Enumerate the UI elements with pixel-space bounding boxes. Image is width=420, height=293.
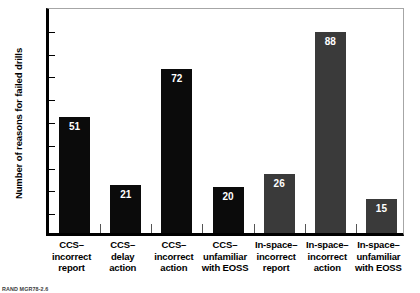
x-axis-label-line: CCS– — [199, 239, 250, 251]
bars-group: 51217220268815 — [49, 9, 403, 233]
x-tick-mark — [202, 224, 203, 233]
x-axis-label-line: CCS– — [46, 239, 97, 251]
x-tick-mark — [305, 224, 306, 233]
bar: 72 — [161, 69, 192, 233]
bar-chart-figure: Number of reasons for failed drills 1009… — [0, 0, 420, 293]
x-axis-label-line: action — [148, 262, 199, 274]
x-axis-label-line: with EOSS — [199, 262, 250, 274]
x-axis-label-line: incorrect — [148, 251, 199, 263]
x-axis-label-line: with EOSS — [353, 262, 404, 274]
bar-value-label: 20 — [213, 191, 244, 202]
x-axis-label-line: unfamiliar — [353, 251, 404, 263]
x-axis-label: CCS–incorrectaction — [148, 239, 199, 274]
bar: 51 — [59, 117, 90, 233]
x-axis-label-line: report — [251, 262, 302, 274]
bar-value-label: 15 — [366, 203, 397, 214]
bar-value-label: 72 — [161, 73, 192, 84]
x-tick-mark — [254, 224, 255, 233]
x-tick-mark — [151, 224, 152, 233]
bar-value-label: 21 — [110, 189, 141, 200]
x-axis-label-line: action — [97, 262, 148, 274]
bar: 20 — [213, 187, 244, 233]
x-axis-label: In-space–incorrectreport — [251, 239, 302, 274]
x-axis-label: CCS–delayaction — [97, 239, 148, 274]
plot-area: 51217220268815 — [46, 8, 404, 236]
x-tick-mark — [100, 224, 101, 233]
figure-credit: RAND MGR78-2.6 — [2, 286, 48, 292]
x-axis-label: CCS–unfamiliarwith EOSS — [199, 239, 250, 274]
bar-value-label: 51 — [59, 121, 90, 132]
x-axis-label-line: CCS– — [148, 239, 199, 251]
x-axis-label: CCS–incorrectreport — [46, 239, 97, 274]
x-axis-label-line: incorrect — [251, 251, 302, 263]
bar: 15 — [366, 199, 397, 233]
x-axis-label: In-space–unfamiliarwith EOSS — [353, 239, 404, 274]
bar: 26 — [264, 174, 295, 233]
x-tick-mark — [356, 224, 357, 233]
x-axis-label: In-space–incorrectaction — [302, 239, 353, 274]
x-axis-label-line: incorrect — [46, 251, 97, 263]
x-axis-label-line: In-space– — [302, 239, 353, 251]
y-axis-title: Number of reasons for failed drills — [13, 2, 24, 246]
x-axis-labels: CCS–incorrectreportCCS–delayactionCCS–in… — [46, 239, 404, 283]
x-axis-label-line: CCS– — [97, 239, 148, 251]
bar-value-label: 88 — [315, 36, 346, 47]
x-axis-label-line: In-space– — [353, 239, 404, 251]
x-axis-label-line: In-space– — [251, 239, 302, 251]
x-axis-label-line: incorrect — [302, 251, 353, 263]
x-axis-label-line: action — [302, 262, 353, 274]
bar-value-label: 26 — [264, 178, 295, 189]
bar: 88 — [315, 32, 346, 233]
x-axis-label-line: report — [46, 262, 97, 274]
bar: 21 — [110, 185, 141, 233]
x-axis-label-line: unfamiliar — [199, 251, 250, 263]
x-axis-label-line: delay — [97, 251, 148, 263]
